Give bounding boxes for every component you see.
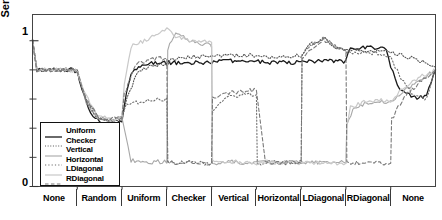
legend-item-label: Checker bbox=[66, 136, 96, 145]
legend-item[interactable]: Vertical bbox=[44, 145, 117, 155]
legend: UniformCheckerVerticalHorizontalLDiagona… bbox=[40, 122, 120, 186]
y-tick-marks bbox=[30, 41, 39, 187]
legend-item-label: RDiagonal bbox=[66, 174, 104, 183]
legend-line-swatch bbox=[44, 136, 63, 144]
legend-item-label: Vertical bbox=[66, 145, 93, 154]
x-axis-label: RDiagonal bbox=[346, 189, 391, 206]
legend-item[interactable]: RDiagonal bbox=[44, 174, 117, 184]
legend-line-swatch bbox=[44, 165, 63, 173]
legend-item[interactable]: LDiagonal bbox=[44, 164, 117, 174]
series-line bbox=[33, 38, 436, 122]
legend-item[interactable]: Checker bbox=[44, 136, 117, 146]
x-axis-label: Uniform bbox=[122, 189, 167, 206]
x-axis-label: LDiagonal bbox=[301, 189, 346, 206]
plot-area bbox=[0, 0, 442, 220]
legend-item-label: Horizontal bbox=[66, 155, 103, 164]
legend-line-swatch bbox=[44, 155, 63, 163]
legend-item-label: LDiagonal bbox=[66, 164, 103, 173]
x-axis-label: Random bbox=[77, 189, 122, 206]
legend-item[interactable]: Uniform bbox=[44, 126, 117, 136]
x-axis-label: Vertical bbox=[212, 189, 257, 206]
x-axis-label: Checker bbox=[167, 189, 212, 206]
legend-line-swatch bbox=[44, 146, 63, 154]
x-axis-labels: NoneRandomUniformCheckerVerticalHorizont… bbox=[32, 189, 435, 206]
chart-figure: Sensitivity 1 0 UniformCheckerVerticalHo… bbox=[0, 0, 442, 220]
x-axis-label: Horizontal bbox=[256, 189, 301, 206]
x-axis-label: None bbox=[391, 189, 435, 206]
x-axis-label: None bbox=[32, 189, 77, 206]
legend-item-label: Uniform bbox=[66, 126, 95, 135]
legend-item[interactable]: Horizontal bbox=[44, 155, 117, 165]
legend-line-swatch bbox=[44, 174, 63, 182]
legend-line-swatch bbox=[44, 127, 63, 135]
